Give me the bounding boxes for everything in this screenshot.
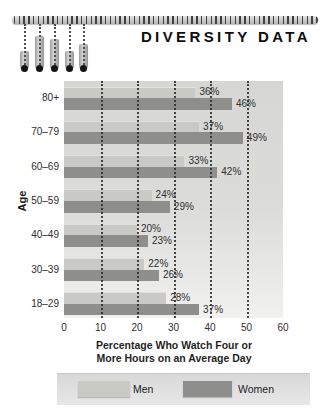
value-label: 36%	[199, 86, 219, 98]
x-tick-label: 50	[233, 322, 261, 334]
x-axis-title-line2: More Hours on an Average Day	[54, 352, 294, 365]
value-label: 23%	[152, 235, 172, 247]
hanging-bar-icon	[50, 24, 59, 72]
dotted-cord-icon	[24, 24, 26, 68]
legend: Men Women	[57, 373, 310, 405]
legend-label-women: Women	[238, 383, 274, 396]
bar-men	[64, 155, 184, 167]
bar-women	[64, 98, 232, 110]
diversity-data-card: DIVERSITY DATA 36%46%37%49%33%42%24%29%2…	[0, 0, 325, 415]
dotted-cord-icon	[69, 24, 71, 68]
x-axis-tick-labels: 0102030405060	[0, 322, 325, 336]
value-label: 29%	[174, 201, 194, 213]
y-tick-label: 18–29	[0, 298, 59, 310]
y-tick-label: 50–59	[0, 195, 59, 207]
bar-women	[64, 235, 148, 247]
y-tick-label: 80+	[0, 92, 59, 104]
x-tick-label: 0	[50, 322, 78, 334]
dotted-cord-icon	[54, 24, 56, 68]
value-label: 24%	[156, 189, 176, 201]
x-tick-label: 60	[269, 322, 297, 334]
value-label: 37%	[203, 304, 223, 316]
y-tick-label: 40–49	[0, 229, 59, 241]
value-label: 42%	[221, 166, 241, 178]
dotted-cord-icon	[39, 24, 41, 68]
y-tick-label: 70–79	[0, 126, 59, 138]
legend-label-men: Men	[133, 383, 153, 396]
gridline	[210, 81, 212, 318]
y-tick-label: 60–69	[0, 161, 59, 173]
bar-women	[64, 167, 217, 179]
cord-dot-icon	[66, 65, 73, 72]
cord-dot-icon	[80, 65, 87, 72]
hanging-bar-icon	[79, 24, 88, 72]
bar-men	[64, 87, 195, 99]
hanging-bar-icon	[35, 24, 44, 72]
value-label: 33%	[188, 155, 208, 167]
dotted-cord-icon	[83, 24, 85, 68]
hanging-bar-icon	[20, 24, 29, 72]
bar-women	[64, 270, 159, 282]
bar-men	[64, 121, 199, 133]
x-tick-label: 10	[87, 322, 115, 334]
x-tick-label: 40	[196, 322, 224, 334]
y-tick-label: 30–39	[0, 264, 59, 276]
value-label: 28%	[170, 292, 190, 304]
bar-women	[64, 132, 243, 144]
x-axis-title: Percentage Who Watch Four or More Hours …	[54, 339, 294, 365]
gridline	[101, 81, 103, 318]
bar-women	[64, 304, 199, 316]
x-tick-label: 20	[123, 322, 151, 334]
hanging-bar-icon	[65, 24, 74, 72]
value-label: 20%	[141, 223, 161, 235]
y-axis-label: Age	[16, 186, 28, 216]
value-label: 46%	[236, 98, 256, 110]
value-label: 26%	[163, 269, 183, 281]
cord-dot-icon	[36, 65, 43, 72]
bar-women	[64, 201, 170, 213]
cord-dot-icon	[51, 65, 58, 72]
bar-men	[64, 258, 144, 270]
legend-swatch-women	[183, 381, 232, 397]
cord-dot-icon	[21, 65, 28, 72]
page-title: DIVERSITY DATA	[141, 28, 311, 45]
value-label: 49%	[247, 132, 267, 144]
dotted-ruler-bar	[12, 16, 318, 24]
value-label: 37%	[203, 121, 223, 133]
gridline	[247, 81, 249, 318]
x-tick-label: 30	[160, 322, 188, 334]
value-label: 22%	[148, 258, 168, 270]
gridline	[137, 81, 139, 318]
plot-area: 36%46%37%49%33%42%24%29%20%23%22%26%28%3…	[64, 81, 283, 318]
bar-men	[64, 292, 166, 304]
x-axis-title-line1: Percentage Who Watch Four or	[54, 339, 294, 352]
legend-swatch-men	[78, 381, 130, 397]
